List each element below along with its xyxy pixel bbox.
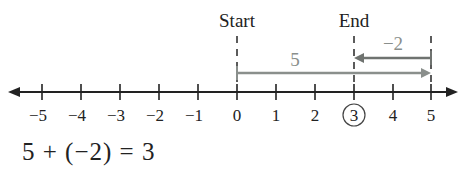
forward-arrow <box>237 66 431 80</box>
tick-label: −2 <box>146 106 164 125</box>
tick-label: 0 <box>233 106 242 125</box>
tick-label: 4 <box>389 106 398 125</box>
tick-label: 2 <box>311 106 320 125</box>
equation: 5 + (−2) = 3 <box>22 138 155 166</box>
tick-label: −3 <box>107 106 125 125</box>
right-arrowhead-icon <box>446 87 458 97</box>
tick-label: 1 <box>272 106 281 125</box>
forward-arrow-label: 5 <box>290 49 300 70</box>
tick-label-circled: 3 <box>350 106 359 125</box>
number-line-axis <box>8 87 458 97</box>
back-arrow-label: −2 <box>383 33 403 54</box>
tick-label: −4 <box>68 106 87 125</box>
tick-label: −1 <box>185 106 203 125</box>
tick-label: −5 <box>29 106 47 125</box>
start-label: Start <box>219 10 256 31</box>
tick-label: 5 <box>427 106 436 125</box>
left-arrowhead-icon <box>8 87 20 97</box>
end-label: End <box>339 10 370 31</box>
tick-labels: −5 −4 −3 −2 −1 0 1 2 3 4 5 <box>29 106 435 125</box>
